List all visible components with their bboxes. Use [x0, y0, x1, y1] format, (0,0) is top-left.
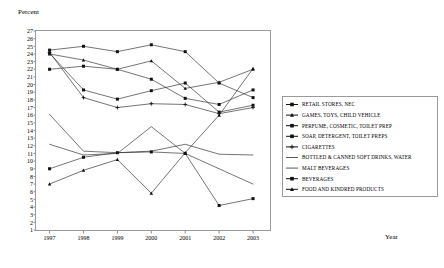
series-layer: [48, 43, 255, 207]
y-tick-label: 13: [27, 135, 33, 141]
series-line: [50, 66, 253, 104]
legend-label: GAMES, TOYS, CHILD VEHICLE: [302, 112, 381, 118]
series-group: [50, 127, 253, 184]
series-line: [50, 127, 253, 184]
data-point-marker: [150, 78, 153, 81]
y-tick-label: 7: [30, 181, 33, 187]
data-point-marker: [184, 97, 187, 100]
series-line: [50, 152, 253, 206]
data-point-marker: [116, 151, 119, 154]
series-group: [48, 150, 254, 207]
legend-label: MALT BEVERAGES: [302, 165, 349, 171]
y-tick-label: 3: [30, 212, 33, 218]
y-tick-label: 1: [30, 227, 33, 233]
series-group: [48, 67, 255, 195]
line-chart-canvas: 1234567891011121314151617181920212223242…: [0, 0, 444, 268]
data-point-marker: [48, 68, 51, 71]
x-tick-label: 2000: [145, 235, 157, 241]
data-point-marker: [116, 158, 119, 161]
legend-label: SOAP, DETERGENT, TOILET PREPS: [302, 133, 387, 139]
data-point-marker: [82, 45, 85, 48]
x-tick-label: 1999: [111, 235, 123, 241]
x-tick-label: 1997: [44, 235, 56, 241]
y-tick-label: 8: [30, 174, 33, 180]
data-point-marker: [290, 124, 294, 128]
y-tick-label: 5: [30, 197, 33, 203]
y-tick-label: 12: [27, 143, 33, 149]
data-point-marker: [290, 103, 294, 107]
y-tick-label: 26: [27, 36, 33, 42]
data-point-marker: [82, 156, 85, 159]
series-group: [48, 52, 255, 90]
x-tick-label: 2003: [247, 235, 259, 241]
data-point-marker: [184, 50, 187, 53]
y-tick-label: 15: [27, 120, 33, 126]
data-point-marker: [82, 65, 85, 68]
data-point-marker: [150, 89, 153, 92]
legend-item[interactable]: BOTTLED & CANNED SOFT DRINKS, WATER: [286, 154, 412, 160]
series-group: [50, 114, 253, 155]
y-tick-label: 10: [27, 158, 33, 164]
data-point-marker: [115, 106, 119, 110]
y-tick-label: 6: [30, 189, 33, 195]
legend-label: CIGARETTES: [302, 144, 335, 150]
data-point-marker: [150, 59, 153, 62]
data-point-marker: [251, 67, 254, 70]
y-tick-label: 2: [30, 220, 33, 226]
y-tick-label: 20: [27, 82, 33, 88]
legend-item[interactable]: SOAP, DETERGENT, TOILET PREPS: [286, 133, 387, 139]
legend-label: PERFUME, COSMETIC, TOILET PREP: [302, 123, 392, 129]
y-tick-label: 22: [27, 66, 33, 72]
y-axis-tick-labels: 1234567891011121314151617181920212223242…: [27, 28, 36, 233]
data-point-marker: [116, 98, 119, 101]
legend-label: RETAIL STORES, NEC: [302, 101, 356, 107]
y-tick-label: 9: [30, 166, 33, 172]
data-point-marker: [48, 167, 51, 170]
chart-figure: Percent Year 123456789101112131415161718…: [0, 0, 444, 268]
data-point-marker: [252, 96, 255, 99]
data-point-marker: [116, 68, 119, 71]
x-axis-tick-labels: 1997199819992000200120022003: [44, 231, 259, 242]
data-point-marker: [48, 182, 51, 185]
data-point-marker: [82, 88, 85, 91]
y-tick-label: 27: [27, 28, 33, 34]
x-tick-label: 2001: [179, 235, 191, 241]
y-tick-label: 19: [27, 89, 33, 95]
plot-area-border: [36, 31, 271, 231]
y-tick-label: 11: [27, 151, 33, 157]
data-point-marker: [149, 102, 153, 106]
series-line: [50, 54, 253, 88]
data-point-marker: [252, 88, 255, 91]
series-line: [50, 69, 253, 194]
data-point-marker: [290, 135, 294, 139]
series-line: [50, 114, 253, 155]
x-tick-label: 2002: [213, 235, 225, 241]
legend-label: BEVERAGES: [302, 176, 333, 182]
data-point-marker: [252, 197, 255, 200]
data-point-marker: [218, 103, 221, 106]
data-point-marker: [290, 177, 294, 181]
data-point-marker: [184, 82, 187, 85]
y-tick-label: 24: [27, 51, 33, 57]
legend-label: FOOD AND KINDRED PRODUCTS: [302, 186, 384, 192]
y-tick-label: 21: [27, 74, 33, 80]
x-tick-label: 1998: [77, 235, 89, 241]
y-tick-label: 18: [27, 97, 33, 103]
legend-item[interactable]: PERFUME, COSMETIC, TOILET PREP: [286, 123, 392, 129]
y-tick-label: 17: [27, 105, 33, 111]
data-point-marker: [183, 103, 187, 107]
y-tick-label: 14: [27, 128, 33, 134]
data-point-marker: [116, 50, 119, 53]
data-point-marker: [218, 204, 221, 207]
y-tick-label: 16: [27, 112, 33, 118]
y-tick-label: 23: [27, 59, 33, 65]
y-tick-label: 25: [27, 44, 33, 50]
legend-label: BOTTLED & CANNED SOFT DRINKS, WATER: [302, 154, 412, 160]
y-tick-label: 4: [30, 204, 33, 210]
data-point-marker: [150, 150, 153, 153]
data-point-marker: [150, 43, 153, 46]
